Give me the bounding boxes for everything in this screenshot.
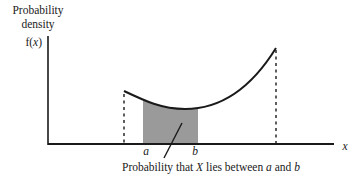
probability-density-diagram: Probability density f(x) a b x Probabili… <box>0 0 364 176</box>
x-axis-label: x <box>341 140 348 152</box>
bound-a-label: a <box>143 145 149 157</box>
function-label: f(x) <box>25 36 42 49</box>
bound-b-label: b <box>192 145 198 157</box>
density-curve <box>124 48 276 109</box>
y-axis-label-line1: Probability <box>12 4 63 17</box>
shaded-probability-area <box>143 100 198 144</box>
y-axis-label-line2: density <box>21 18 54 31</box>
caption: Probability that X lies between a and b <box>122 161 300 174</box>
